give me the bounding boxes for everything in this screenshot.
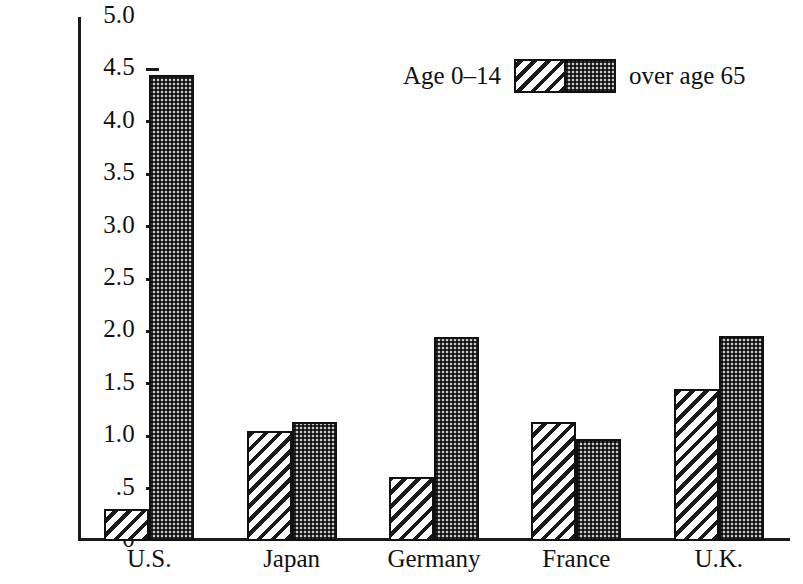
x-axis-label: Japan <box>220 545 362 573</box>
bar-group <box>674 17 764 541</box>
legend-label-over-age-65: over age 65 <box>629 62 746 90</box>
bar-group <box>247 17 337 541</box>
x-axis-label: U.K. <box>648 545 790 573</box>
bar-group <box>104 17 194 541</box>
bar-group <box>531 17 621 541</box>
x-axis-label: Germany <box>363 545 505 573</box>
bar <box>576 439 621 541</box>
legend: Age 0–14 over age 65 <box>403 58 746 94</box>
x-axis-label: U.S. <box>78 545 220 573</box>
x-axis-labels: U.S.JapanGermanyFranceU.K. <box>78 545 790 584</box>
bar <box>247 431 292 541</box>
bar-group <box>389 17 479 541</box>
bar <box>674 389 719 541</box>
x-axis-label: France <box>505 545 647 573</box>
legend-swatch-group <box>514 59 616 93</box>
legend-swatch-dots-icon <box>564 61 614 91</box>
bar <box>389 477 434 541</box>
legend-swatch-hatch-icon <box>516 61 564 91</box>
bar <box>719 336 764 541</box>
bar <box>292 422 337 541</box>
legend-label-age-0-14: Age 0–14 <box>403 62 501 90</box>
bar <box>104 509 149 541</box>
bar <box>434 337 479 541</box>
bar-chart: 5.04.54.03.53.02.52.01.51.0.50 U.S.Japan… <box>0 0 803 584</box>
bar <box>531 422 576 541</box>
bars-layer <box>78 17 790 541</box>
bar <box>149 75 194 541</box>
